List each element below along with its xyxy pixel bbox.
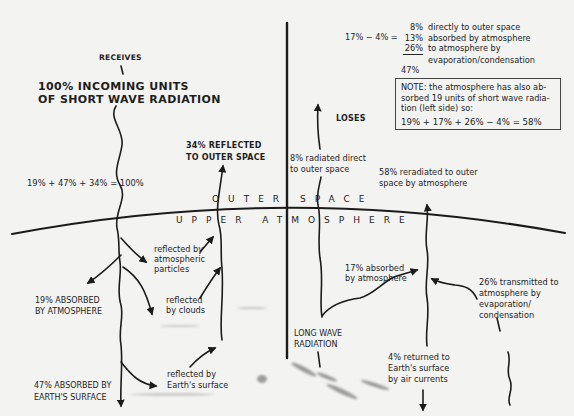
absorbed-atmosphere-line1: 19% ABSORBED — [35, 296, 100, 307]
breakdown-row: 8%directly to outer space — [403, 22, 535, 33]
outer-space-label: OUTER SPACE — [212, 194, 374, 204]
transmitted-26-line4: condensation — [479, 310, 534, 321]
breakdown-row: 13%absorbed by atmosphere — [403, 33, 535, 44]
note-equation: 19% + 17% + 26% − 4% = 58% — [401, 117, 555, 128]
absorbed-surface-line1: 47% ABSORBED BY — [34, 381, 111, 392]
returned-4-line3: by air currents — [388, 374, 448, 385]
long-wave-line2: RADIATION — [294, 340, 338, 351]
note-box: NOTE: the atmosphere has also ab- sorbed… — [395, 78, 561, 130]
reradiated-line1: 58% reradiated to outer — [379, 167, 478, 178]
transmitted-26-line1: 26% transmitted to — [479, 277, 559, 288]
transmitted-26-line3: evaporation/ — [479, 299, 531, 310]
radiated-direct-line2: to outer space — [290, 164, 349, 175]
transmitted-26-line2: atmosphere by — [479, 288, 541, 299]
reflected-surface-line1: reflected by — [167, 369, 216, 380]
breakdown-row: evaporation/condensation — [403, 55, 535, 66]
reflected-particles-line3: particles — [154, 264, 189, 275]
breakdown-row: 26%to atmosphere by — [403, 43, 535, 55]
reflected-surface-line2: Earth's surface — [167, 380, 228, 391]
note-line3: tion (left side) so: — [401, 103, 555, 114]
cloud-texture — [160, 325, 200, 327]
absorbed-17-line1: 17% absorbed — [345, 263, 404, 274]
sum-equation: 19% + 47% + 34% = 100% — [27, 178, 144, 189]
breakdown-total: 47% — [401, 65, 419, 76]
radiated-direct-line1: 8% radiated direct — [290, 153, 366, 164]
note-line1: NOTE: the atmosphere has also ab- — [401, 82, 555, 93]
surface-texture — [257, 375, 267, 383]
reflected-clouds-line1: reflected — [166, 295, 202, 306]
surface-texture — [130, 393, 215, 396]
reflected-clouds-line2: by clouds — [166, 305, 205, 316]
loses-label: LOSES — [336, 114, 366, 125]
cloud-texture — [237, 307, 267, 309]
absorbed-atmosphere-line2: BY ATMOSPHERE — [35, 307, 102, 318]
reflected-34-line1: 34% REFLECTED — [186, 140, 262, 152]
note-line2: sorbed 19 units of short wave radia- — [401, 93, 555, 104]
returned-4-line2: Earth's surface — [388, 363, 449, 374]
receives-label: RECEIVES — [99, 53, 142, 64]
returned-4-line1: 4% returned to — [388, 352, 450, 363]
incoming-title-line1: 100% INCOMING UNITS — [38, 80, 189, 93]
long-wave-line1: LONG WAVE — [294, 329, 342, 340]
loss-breakdown: 8%directly to outer space 13%absorbed by… — [403, 22, 535, 65]
upper-atmosphere-label: UPPER ATMOSPHERE — [176, 215, 414, 225]
reflected-34-line2: TO OUTER SPACE — [186, 152, 265, 164]
reflected-particles-line2: atmospheric — [154, 254, 205, 265]
energy-balance-diagram: OUTER SPACE UPPER ATMOSPHERE RECEIVES 10… — [0, 0, 574, 416]
reflected-particles-line1: reflected by — [154, 244, 203, 255]
reradiated-line2: space by atmosphere — [379, 178, 467, 189]
breakdown-equation-prefix: 17% − 4% = — [345, 32, 398, 43]
incoming-title-line2: OF SHORT WAVE RADIATION — [38, 93, 221, 106]
absorbed-17-line2: by atmosphere — [345, 273, 407, 284]
absorbed-surface-line2: EARTH'S SURFACE — [34, 393, 107, 404]
